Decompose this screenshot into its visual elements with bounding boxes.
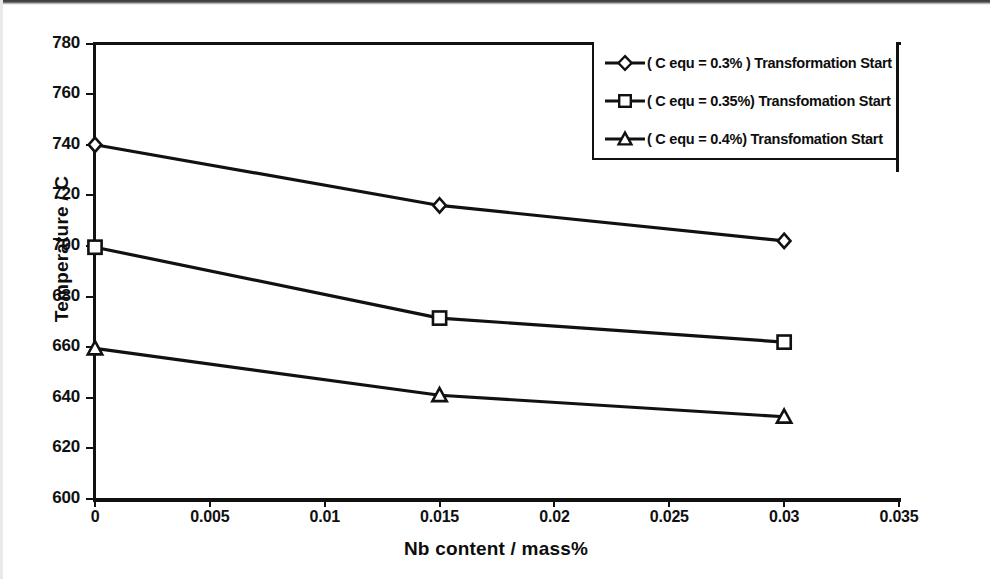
chart-figure: 780760740720700680660640620600 00.0050.0… <box>0 0 990 579</box>
y-tick-mark <box>86 93 94 95</box>
x-tick-label: 0.015 <box>395 508 485 526</box>
x-tick-label: 0.01 <box>280 508 370 526</box>
y-tick-mark <box>86 447 94 449</box>
x-tick-mark <box>94 500 96 507</box>
x-tick-mark <box>898 500 900 507</box>
y-tick-mark <box>86 43 94 45</box>
legend-label: ( C equ = 0.4%) Transfomation Start <box>647 131 883 147</box>
legend-label: ( C equ = 0.35%) Transfomation Start <box>647 93 891 109</box>
x-tick-label: 0 <box>50 508 140 526</box>
y-tick-mark <box>86 346 94 348</box>
triangle-marker-icon <box>604 129 646 149</box>
diamond-marker-icon <box>604 53 646 73</box>
scan-artifact-top-edge <box>0 0 990 5</box>
y-tick-label: 780 <box>18 33 80 53</box>
y-tick-label: 640 <box>18 387 80 407</box>
x-tick-mark <box>668 500 670 507</box>
x-tick-label: 0.005 <box>165 508 255 526</box>
y-tick-mark <box>86 194 94 196</box>
y-tick-label: 620 <box>18 437 80 457</box>
scan-artifact-left-edge <box>0 0 3 579</box>
square-marker-icon <box>604 91 646 111</box>
y-tick-label: 600 <box>18 488 80 508</box>
x-axis-title: Nb content / mass% <box>93 538 899 560</box>
y-tick-mark <box>86 498 94 500</box>
legend-item-c-equ-0-3[interactable]: ( C equ = 0.3% ) Transformation Start <box>604 52 892 74</box>
x-tick-label: 0.035 <box>854 508 944 526</box>
y-tick-mark <box>86 296 94 298</box>
x-axis-line <box>93 498 901 502</box>
y-axis-title: Temperature / C <box>51 119 73 379</box>
x-tick-mark <box>324 500 326 507</box>
x-tick-mark <box>783 500 785 507</box>
y-tick-mark <box>86 245 94 247</box>
x-tick-label: 0.02 <box>509 508 599 526</box>
x-tick-mark <box>553 500 555 507</box>
legend: ( C equ = 0.3% ) Transformation Start ( … <box>592 42 899 160</box>
x-tick-mark <box>209 500 211 507</box>
x-tick-label: 0.025 <box>624 508 714 526</box>
legend-right-border <box>896 42 899 172</box>
y-tick-mark <box>86 144 94 146</box>
y-tick-mark <box>86 397 94 399</box>
legend-label: ( C equ = 0.3% ) Transformation Start <box>647 55 892 71</box>
x-tick-label: 0.03 <box>739 508 829 526</box>
x-tick-mark <box>439 500 441 507</box>
legend-item-c-equ-0-4[interactable]: ( C equ = 0.4%) Transfomation Start <box>604 128 883 150</box>
y-tick-label: 760 <box>18 83 80 103</box>
legend-item-c-equ-0-35[interactable]: ( C equ = 0.35%) Transfomation Start <box>604 90 891 112</box>
